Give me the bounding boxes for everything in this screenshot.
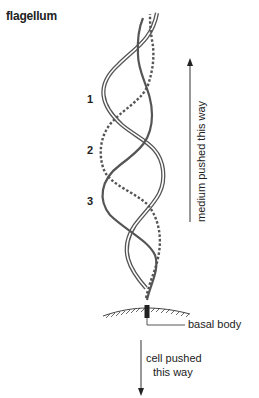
- basal-body-label: basal body: [188, 318, 241, 330]
- wave-label-1: 1: [87, 93, 93, 105]
- medium-arrow-head: [187, 58, 193, 66]
- wave-label-3: 3: [87, 195, 93, 207]
- cell-arrow-head: [138, 388, 144, 396]
- wave-label-2: 2: [87, 144, 93, 156]
- medium-direction-label: medium pushed this way: [195, 101, 207, 222]
- basal-body-leader-line: [147, 318, 185, 325]
- flagellum-diagram: [0, 0, 259, 398]
- cell-direction-label-line2: this way: [153, 366, 193, 378]
- basal-body: [145, 305, 150, 318]
- cell-direction-label-line1: cell pushed: [146, 352, 202, 364]
